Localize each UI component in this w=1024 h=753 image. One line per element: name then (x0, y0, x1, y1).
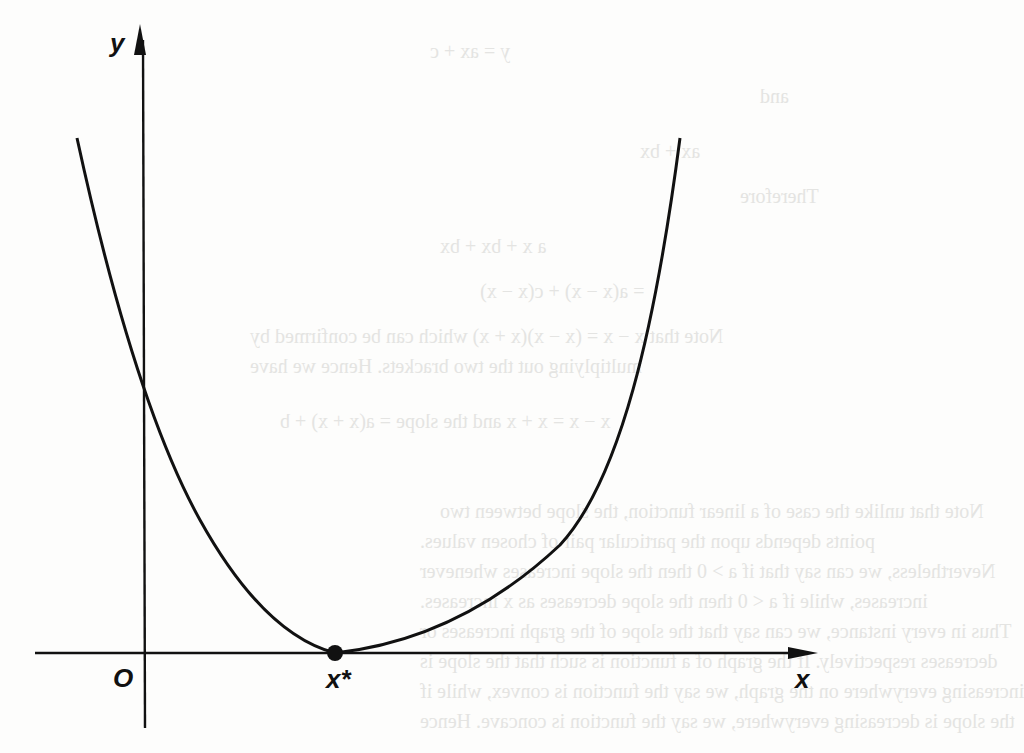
y-axis-arrow-icon (134, 24, 146, 55)
x-axis-arrow-icon (788, 647, 818, 659)
minimum-point-marker (327, 645, 343, 661)
convex-curve (77, 138, 680, 653)
origin-label: O (113, 665, 133, 691)
x-axis-label: x (795, 666, 809, 692)
y-axis-label: y (110, 30, 124, 56)
minimum-point-label: x* (326, 666, 351, 692)
x-axis (35, 647, 818, 659)
